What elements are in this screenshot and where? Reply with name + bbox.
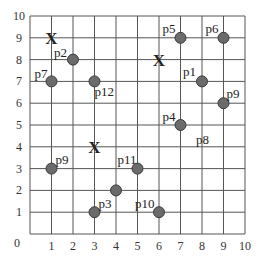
point-label: p1 [183, 64, 196, 79]
point-label: p7 [35, 66, 49, 81]
x-tick-label: 9 [221, 239, 227, 253]
y-tick-label: 7 [16, 74, 22, 88]
x-tick-label: 10 [239, 239, 251, 253]
x-tick-label: 3 [92, 239, 98, 253]
y-tick-label: 4 [16, 140, 22, 154]
data-point [218, 32, 229, 43]
y-tick-label: 6 [16, 96, 22, 110]
scatter-chart: 12345678910 12345678910 0 XXX p1p2p3p4p5… [0, 0, 265, 263]
x-tick-label: 2 [70, 239, 76, 253]
point-label: p12 [95, 84, 115, 99]
x-tick-label: 5 [135, 239, 141, 253]
x-tick-label: 1 [49, 239, 55, 253]
y-tick-label: 5 [16, 118, 22, 132]
x-tick-label: 7 [178, 239, 184, 253]
data-point [175, 32, 186, 43]
data-point [175, 120, 186, 131]
point-label: p6 [206, 21, 220, 36]
y-tick-label: 2 [16, 183, 22, 197]
point-label: p10 [135, 196, 155, 211]
x-tick-label: 4 [113, 239, 119, 253]
point-label: p3 [99, 196, 112, 211]
point-label: p2 [54, 45, 67, 60]
point-label: p9 [227, 86, 240, 101]
data-point [154, 207, 165, 218]
y-tick-label: 3 [16, 162, 22, 176]
x-tick-label: 8 [199, 239, 205, 253]
y-axis-ticks: 12345678910 [13, 9, 25, 219]
y-tick-label: 1 [16, 205, 22, 219]
point-label: p8 [196, 132, 209, 147]
origin-label: 0 [14, 236, 20, 250]
y-tick-label: 9 [16, 31, 22, 45]
data-point [111, 185, 122, 196]
point-label: p5 [163, 21, 176, 36]
point-label: p11 [118, 152, 137, 167]
point-label: p9 [56, 152, 69, 167]
x-marker: X [88, 138, 101, 157]
data-point [46, 76, 57, 87]
x-marker: X [153, 51, 166, 70]
data-point [197, 76, 208, 87]
y-tick-label: 8 [16, 53, 22, 67]
data-point [68, 54, 79, 65]
text-labels: p8 [196, 132, 209, 147]
point-label: p4 [163, 109, 177, 124]
x-tick-label: 6 [156, 239, 162, 253]
y-tick-label: 10 [13, 9, 25, 23]
x-axis-ticks: 12345678910 [49, 239, 252, 253]
